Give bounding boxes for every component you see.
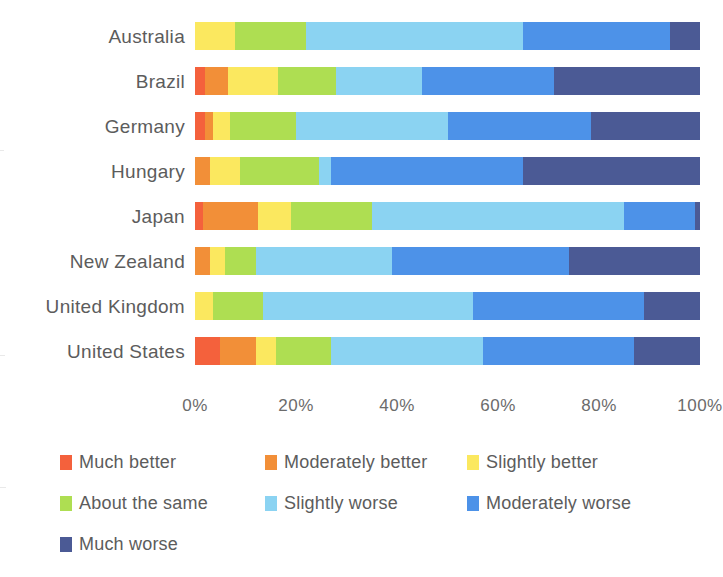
bar-segment <box>336 67 422 95</box>
bar-segment <box>213 112 231 140</box>
bar-segment <box>220 337 255 365</box>
bar-segment <box>296 112 448 140</box>
bar-row: Australia <box>0 18 714 63</box>
bar-segment <box>634 337 700 365</box>
x-tick-label: 20% <box>278 396 314 416</box>
legend-row: Much betterModerately betterSlightly bet… <box>60 452 700 493</box>
legend-swatch-icon <box>265 455 277 470</box>
x-tick-label: 40% <box>379 396 415 416</box>
legend-label: Moderately better <box>284 452 427 473</box>
bar-segment <box>195 112 205 140</box>
bar-segment <box>291 202 372 230</box>
bar-track <box>195 292 700 320</box>
x-tick-label: 80% <box>581 396 617 416</box>
x-tick-label: 100% <box>677 396 722 416</box>
bar-segment <box>230 112 296 140</box>
legend-item[interactable]: Moderately worse <box>467 493 631 514</box>
bar-track <box>195 112 700 140</box>
bar-segment <box>225 247 255 275</box>
bar-track <box>195 247 700 275</box>
bar-segment <box>422 67 553 95</box>
legend-label: Slightly better <box>486 452 598 473</box>
legend-swatch-icon <box>60 496 72 511</box>
legend-label: Much better <box>79 452 176 473</box>
bar-segment <box>331 157 523 185</box>
x-tick-label: 60% <box>480 396 516 416</box>
bar-row: New Zealand <box>0 243 714 288</box>
bar-segment <box>319 157 332 185</box>
bar-segment <box>448 112 592 140</box>
bar-track <box>195 67 700 95</box>
bar-track <box>195 202 700 230</box>
bar-segment <box>205 112 213 140</box>
category-label: United Kingdom <box>0 296 185 318</box>
bar-segment <box>523 22 669 50</box>
bar-segment <box>256 247 392 275</box>
bar-segment <box>235 22 306 50</box>
bar-segment <box>258 202 291 230</box>
bar-segment <box>195 22 235 50</box>
bar-segment <box>195 157 210 185</box>
bar-segment <box>240 157 318 185</box>
legend-item[interactable]: About the same <box>60 493 208 514</box>
legend-item[interactable]: Moderately better <box>265 452 427 473</box>
bar-segment <box>213 292 264 320</box>
bar-segment <box>306 22 523 50</box>
category-label: Hungary <box>0 161 185 183</box>
bar-segment <box>203 202 259 230</box>
bar-segment <box>256 337 276 365</box>
bar-segment <box>228 67 279 95</box>
bar-track <box>195 337 700 365</box>
chart-legend: Much betterModerately betterSlightly bet… <box>60 452 700 575</box>
category-label: Brazil <box>0 71 185 93</box>
category-label: United States <box>0 341 185 363</box>
bar-segment <box>392 247 569 275</box>
legend-swatch-icon <box>265 496 277 511</box>
bar-segment <box>195 247 210 275</box>
legend-swatch-icon <box>60 455 72 470</box>
bar-row: United Kingdom <box>0 288 714 333</box>
bar-segment <box>195 337 220 365</box>
bar-segment <box>276 337 332 365</box>
bar-row: Germany <box>0 108 714 153</box>
bar-row: Brazil <box>0 63 714 108</box>
bar-segment <box>195 202 203 230</box>
plot-area: AustraliaBrazilGermanyHungaryJapanNew Ze… <box>0 0 714 400</box>
bar-track <box>195 157 700 185</box>
bar-segment <box>205 67 228 95</box>
legend-label: Slightly worse <box>284 493 398 514</box>
bar-segment <box>554 67 700 95</box>
category-label: Japan <box>0 206 185 228</box>
legend-swatch-icon <box>467 496 479 511</box>
legend-item[interactable]: Slightly worse <box>265 493 398 514</box>
legend-item[interactable]: Much better <box>60 452 176 473</box>
category-label: Germany <box>0 116 185 138</box>
legend-label: Much worse <box>79 534 178 555</box>
bar-segment <box>195 292 213 320</box>
category-label: Australia <box>0 26 185 48</box>
bar-segment <box>591 112 700 140</box>
bar-segment <box>523 157 700 185</box>
bar-row: United States <box>0 333 714 378</box>
bar-row: Japan <box>0 198 714 243</box>
bar-segment <box>483 337 635 365</box>
bar-segment <box>473 292 645 320</box>
bar-segment <box>695 202 700 230</box>
x-axis: 0%20%40%60%80%100% <box>0 396 714 426</box>
legend-item[interactable]: Much worse <box>60 534 178 555</box>
legend-swatch-icon <box>60 537 72 552</box>
bar-segment <box>263 292 473 320</box>
bar-segment <box>670 22 700 50</box>
bar-segment <box>569 247 700 275</box>
x-tick-label: 0% <box>182 396 208 416</box>
legend-swatch-icon <box>467 455 479 470</box>
bar-row: Hungary <box>0 153 714 198</box>
legend-row: About the sameSlightly worseModerately w… <box>60 493 700 534</box>
category-label: New Zealand <box>0 251 185 273</box>
legend-label: About the same <box>79 493 208 514</box>
legend-item[interactable]: Slightly better <box>467 452 598 473</box>
legend-label: Moderately worse <box>486 493 631 514</box>
bar-segment <box>331 337 483 365</box>
bar-segment <box>195 67 205 95</box>
